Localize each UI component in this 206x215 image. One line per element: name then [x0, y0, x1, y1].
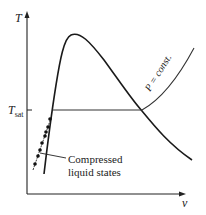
y-axis-arrow-icon — [25, 11, 30, 18]
compressed-liquid-dots — [33, 117, 52, 170]
y-axis-label: T — [15, 11, 23, 25]
tv-diagram: T v Tsat P = const. Compressed liquid st… — [0, 0, 206, 215]
x-axis-label: v — [182, 196, 188, 210]
annotation-line2: liquid states — [68, 166, 121, 178]
tsat-label: Tsat — [8, 103, 24, 119]
annotation-line1: Compressed — [68, 153, 123, 165]
annotation-leader — [40, 153, 66, 158]
isobar-line — [52, 48, 194, 110]
isobar-label: P = const. — [142, 52, 174, 94]
